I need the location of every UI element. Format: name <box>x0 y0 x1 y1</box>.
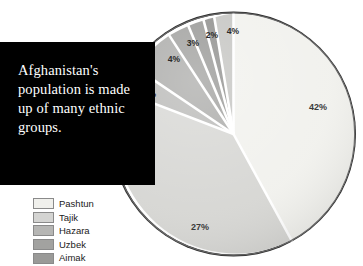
legend-swatch-icon-aimak <box>33 253 54 264</box>
legend-label-tajik: Tajik <box>59 213 78 223</box>
legend-item-tajik[interactable]: Tajik <box>33 211 94 225</box>
pie-chart-infographic: 42% 27% 9% 9% 4% 3% 2% 4% Afghanistan's … <box>0 0 363 266</box>
slice-value-42: 42% <box>309 102 327 112</box>
legend-item-uzbek[interactable]: Uzbek <box>33 238 94 252</box>
slice-value-4-left: 4% <box>168 54 181 64</box>
legend-label-pashtun: Pashtun <box>59 199 94 209</box>
legend-item-pashtun[interactable]: Pashtun <box>33 197 94 211</box>
quote-panel: Afghanistan's population is made up of m… <box>0 42 155 185</box>
slice-value-3: 3% <box>187 38 200 48</box>
legend-swatch-icon-hazara <box>33 225 54 236</box>
slice-value-4-right: 4% <box>227 26 240 36</box>
legend-item-hazara[interactable]: Hazara <box>33 224 94 238</box>
legend-item-aimak[interactable]: Aimak <box>33 251 94 265</box>
chart-legend: Pashtun Tajik Hazara Uzbek Aimak <box>33 197 94 265</box>
legend-label-uzbek: Uzbek <box>59 240 86 250</box>
legend-swatch-icon-tajik <box>33 212 54 223</box>
legend-swatch-icon-uzbek <box>33 239 54 250</box>
quote-text: Afghanistan's population is made up of m… <box>18 61 144 136</box>
slice-value-27: 27% <box>191 222 209 232</box>
slice-value-2: 2% <box>206 30 219 40</box>
legend-label-hazara: Hazara <box>59 226 90 236</box>
legend-swatch-icon-pashtun <box>33 198 54 209</box>
legend-label-aimak: Aimak <box>59 253 85 263</box>
